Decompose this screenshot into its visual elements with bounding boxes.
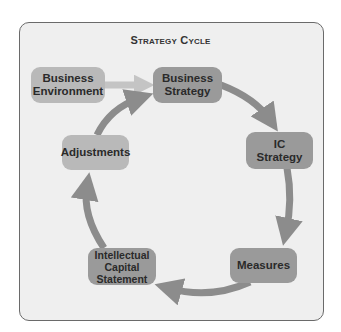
arrow-strategy-to-ic xyxy=(221,85,270,120)
node-business-strategy: Business Strategy xyxy=(153,67,222,103)
node-ic-strategy: IC Strategy xyxy=(246,132,313,169)
node-measures: Measures xyxy=(230,248,297,283)
node-business-environment: Business Environment xyxy=(31,67,105,103)
node-intellectual-capital-statement: Intellectual Capital Statement xyxy=(88,248,156,285)
arrow-statement-to-adjustments xyxy=(86,186,104,248)
arrow-adjustments-to-strategy xyxy=(97,98,140,135)
node-adjustments: Adjustments xyxy=(62,135,129,170)
arrow-measures-to-statement xyxy=(168,282,250,293)
arrow-ic-to-measures xyxy=(286,168,290,232)
